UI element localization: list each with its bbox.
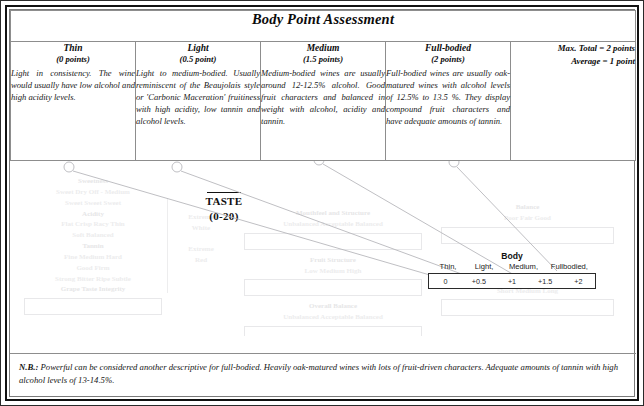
body-score-0[interactable]: 0 <box>429 277 462 286</box>
body-score-1[interactable]: +1 <box>495 277 528 286</box>
footnote: N.B.: Powerful can be considered another… <box>10 353 636 387</box>
page-title: Body Point Assessment <box>11 11 636 42</box>
category-points: (0.5 point) <box>136 54 260 65</box>
category-table: Body Point Assessment Thin (0 points) Li… <box>10 10 636 161</box>
category-description: Light to medium-bodied. Usually reminisc… <box>136 67 260 128</box>
taste-label: TASTE <box>179 194 269 209</box>
category-row: Thin (0 points) Light in consistency. Th… <box>11 42 636 161</box>
summary-cell: Max. Total = 2 points Average = 1 point <box>511 42 636 161</box>
summary-average: Average = 1 point <box>511 55 635 68</box>
body-score-0p5[interactable]: +0.5 <box>462 277 495 286</box>
assessment-sheet: Sweetness Sweet Dry Off - Medium Sweet S… <box>0 0 644 406</box>
category-cell-light: Light (0.5 point) Light to medium-bodied… <box>136 42 261 161</box>
category-cell-full-bodied: Full-bodied (2 points) Full-bodied wines… <box>386 42 511 161</box>
body-score-callout: Body Thin, Light, Medium, Fullbodied, 0 … <box>428 251 596 289</box>
body-score-1p5[interactable]: +1.5 <box>529 277 562 286</box>
taste-overline-rule <box>207 192 241 193</box>
body-label-light: Light, <box>466 262 502 271</box>
body-callout-title: Body <box>428 251 596 261</box>
category-description: Medium-bodied wines are usually around 1… <box>261 67 385 128</box>
taste-section-heading: TASTE (0-20) <box>179 192 269 224</box>
category-description: Full-bodied wines are usually oak-mature… <box>386 67 510 128</box>
category-name: Medium <box>261 42 385 54</box>
body-label-thin: Thin, <box>430 262 466 271</box>
taste-range: (0-20) <box>179 209 269 224</box>
body-label-medium: Medium, <box>502 262 545 271</box>
category-points: (1.5 points) <box>261 54 385 65</box>
body-callout-labels: Thin, Light, Medium, Fullbodied, <box>428 262 596 273</box>
title-row: Body Point Assessment <box>11 11 636 42</box>
body-label-fullbodied: Fullbodied, <box>545 262 594 271</box>
summary-max-total: Max. Total = 2 points <box>511 42 635 55</box>
category-points: (0 points) <box>11 54 135 65</box>
category-points: (2 points) <box>386 54 510 65</box>
category-name: Light <box>136 42 260 54</box>
category-description: Light in consistency. The wine would usu… <box>11 67 135 104</box>
body-score-scale[interactable]: 0 +0.5 +1 +1.5 +2 <box>428 273 596 289</box>
category-name: Thin <box>11 42 135 54</box>
footnote-prefix: N.B.: <box>19 362 38 372</box>
category-name: Full-bodied <box>386 42 510 54</box>
footnote-text: Powerful can be considered another descr… <box>19 362 618 385</box>
category-cell-thin: Thin (0 points) Light in consistency. Th… <box>11 42 136 161</box>
body-score-2[interactable]: +2 <box>562 277 595 286</box>
category-cell-medium: Medium (1.5 points) Medium-bodied wines … <box>261 42 386 161</box>
